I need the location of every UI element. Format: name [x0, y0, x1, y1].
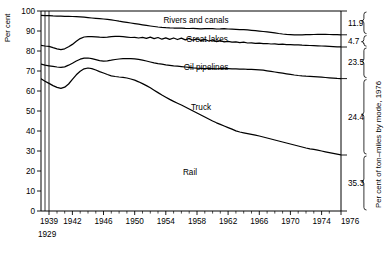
y-tick-label: 70	[26, 67, 36, 76]
x-axis-ticks	[49, 211, 341, 215]
y-tick-label: 100	[21, 7, 35, 16]
freight-mode-share-chart: Per cent 100 90 80 70	[0, 0, 390, 257]
y-axis-tick-labels: 100 90 80 70 60 50 40 30 20 10 0	[21, 7, 35, 216]
y-tick-label: 40	[26, 127, 36, 136]
x-tick-label: 1946	[94, 217, 113, 226]
y-axis-title-text: Per cent	[3, 13, 12, 42]
x-axis: 1939 1942 1946 1950 1954 1958 1962 1966 …	[38, 211, 360, 239]
y-axis-title: Per cent	[3, 13, 12, 42]
y-tick-label: 60	[26, 87, 36, 96]
series-label-truck: Truck	[191, 103, 212, 112]
x-tick-label: 1974	[312, 217, 331, 226]
x-tick-label: 1962	[219, 217, 238, 226]
x-tick-label: 1950	[126, 217, 145, 226]
right-axis-segment-ticks	[341, 11, 347, 211]
series-label-oil-pipelines: Oil pipelines	[184, 63, 229, 72]
brace-great-lakes	[362, 36, 367, 47]
y-axis: 100 90 80 70 60 50 40 30 20 10 0	[21, 7, 41, 216]
series-label-rivers-and-canals: Rivers and canals	[163, 16, 228, 25]
y-tick-label: 0	[30, 207, 35, 216]
x-tick-label: 1954	[157, 217, 176, 226]
y-axis-ticks	[37, 11, 41, 211]
y-tick-label: 30	[26, 147, 36, 156]
series-label-great-lakes: Great lakes	[186, 35, 228, 44]
x-tick-label-end: 1976	[341, 217, 360, 226]
right-value-great-lakes: 4.7	[348, 37, 360, 46]
right-axis: 11.9 4.7 23.5 24.4 35.3 Per cent of ton–…	[341, 11, 383, 211]
x-axis-tick-labels: 1939 1942 1946 1950 1954 1958 1962 1966 …	[38, 217, 360, 239]
right-value-rivers-and-canals: 11.9	[348, 19, 364, 28]
right-axis-title: Per cent of ton–miles by mode, 1976	[374, 81, 383, 208]
y-tick-label: 80	[26, 47, 36, 56]
x-tick-label: 1970	[281, 217, 300, 226]
x-tick-label: 1939	[40, 217, 59, 226]
right-axis-values: 11.9 4.7 23.5 24.4 35.3	[348, 19, 364, 188]
series-label-rail: Rail	[183, 168, 197, 177]
x-tick-label: 1958	[188, 217, 207, 226]
x-tick-label: 1966	[250, 217, 269, 226]
right-value-rail: 35.3	[348, 179, 364, 188]
y-tick-label: 20	[26, 167, 36, 176]
series-inline-labels: Rivers and canals Great lakes Oil pipeli…	[163, 16, 228, 177]
y-tick-label: 50	[26, 107, 36, 116]
right-value-oil-pipelines: 23.5	[348, 58, 364, 67]
x-tick-label: 1942	[63, 217, 82, 226]
chart-figure: Per cent 100 90 80 70	[0, 0, 390, 257]
y-tick-label: 90	[26, 27, 36, 36]
y-tick-label: 10	[26, 187, 36, 196]
x-tick-label-first-year: 1929	[38, 230, 57, 239]
